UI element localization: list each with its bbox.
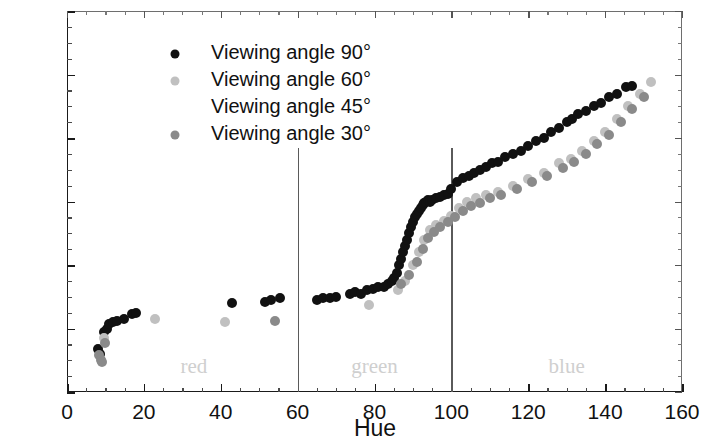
tick <box>86 11 87 15</box>
tick <box>675 11 682 12</box>
tick <box>644 388 645 393</box>
tick <box>678 59 682 60</box>
tick <box>67 154 72 155</box>
legend-marker-60 <box>171 77 180 86</box>
tick <box>605 384 607 392</box>
data-point <box>569 157 579 167</box>
tick <box>624 11 625 15</box>
plot-area: 34363840424446 020406080100120140160 red… <box>67 11 682 392</box>
tick <box>678 217 682 218</box>
tick <box>675 202 682 203</box>
legend-marker-30 <box>171 131 180 140</box>
tick <box>67 186 72 187</box>
tick <box>86 388 87 393</box>
tick <box>67 344 72 345</box>
data-point <box>396 279 406 289</box>
tick <box>67 202 75 204</box>
tick <box>144 384 146 392</box>
tick <box>567 11 568 15</box>
tick <box>451 11 452 18</box>
data-point <box>412 257 422 267</box>
tick <box>355 11 356 15</box>
tick <box>432 388 433 393</box>
tick <box>221 384 223 392</box>
tick <box>202 11 203 15</box>
tick <box>317 388 318 393</box>
data-point <box>266 295 276 305</box>
tick <box>67 43 72 44</box>
region-divider <box>298 148 299 392</box>
legend-label-60: Viewing angle 60° <box>211 68 371 91</box>
tick <box>278 11 279 15</box>
tick <box>278 388 279 393</box>
tick <box>67 27 72 28</box>
data-point <box>527 177 537 187</box>
tick <box>67 392 75 394</box>
data-point <box>558 163 568 173</box>
tick <box>678 313 682 314</box>
tick <box>678 170 682 171</box>
tick <box>67 360 72 361</box>
data-point <box>512 184 522 194</box>
data-point <box>466 201 476 211</box>
tick <box>675 392 682 393</box>
legend-marker-45 <box>171 104 180 113</box>
tick <box>125 388 126 393</box>
tick <box>240 11 241 15</box>
tick <box>678 281 682 282</box>
legend-label-45: Viewing angle 45° <box>211 95 371 118</box>
tick <box>394 11 395 15</box>
tick <box>202 388 203 393</box>
tick <box>67 170 72 171</box>
tick <box>678 344 682 345</box>
tick <box>567 388 568 393</box>
tick <box>471 11 472 15</box>
tick <box>182 11 183 15</box>
tick <box>586 11 587 15</box>
data-point <box>227 298 237 308</box>
tick <box>67 313 72 314</box>
data-point <box>581 149 591 159</box>
data-point <box>604 130 614 140</box>
data-point <box>404 270 414 280</box>
tick <box>471 388 472 393</box>
tick <box>298 11 299 18</box>
x-tick-label: 160 <box>622 400 704 424</box>
tick <box>355 388 356 393</box>
tick <box>509 388 510 393</box>
tick <box>624 388 625 393</box>
legend-label-30: Viewing angle 30° <box>211 122 371 145</box>
tick <box>163 388 164 393</box>
tick <box>678 90 682 91</box>
tick <box>67 297 72 298</box>
tick <box>336 11 337 15</box>
data-point <box>331 292 341 302</box>
tick <box>586 388 587 393</box>
tick <box>675 265 682 266</box>
tick <box>144 11 145 18</box>
data-point <box>150 314 160 324</box>
tick <box>317 11 318 15</box>
data-point <box>639 92 649 102</box>
tick <box>221 11 222 18</box>
tick <box>547 11 548 15</box>
tick <box>182 388 183 393</box>
tick <box>67 122 72 123</box>
tick <box>240 388 241 393</box>
legend-marker-90 <box>171 50 180 59</box>
data-point <box>616 117 626 127</box>
tick <box>663 11 664 15</box>
tick <box>547 388 548 393</box>
data-point <box>646 77 656 87</box>
tick <box>682 384 684 392</box>
legend-label-90: Viewing angle 90° <box>211 41 371 64</box>
tick <box>413 388 414 393</box>
tick <box>678 249 682 250</box>
tick <box>490 11 491 15</box>
tick <box>678 376 682 377</box>
tick <box>67 233 72 234</box>
tick <box>678 297 682 298</box>
data-point <box>275 293 285 303</box>
tick <box>678 186 682 187</box>
